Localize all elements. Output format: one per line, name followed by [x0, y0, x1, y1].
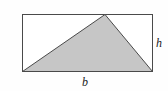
triangle-rectangle-figure: b h — [0, 0, 168, 91]
height-label: h — [156, 36, 162, 50]
base-label: b — [82, 75, 88, 89]
geometry-diagram: b h — [0, 0, 168, 91]
